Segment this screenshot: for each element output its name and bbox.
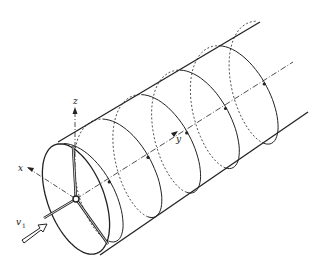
x-axis-label: x [18,163,23,173]
z-axis-label: z [72,96,78,106]
x-axis-line [28,168,76,199]
inflow-label: v [16,217,21,227]
helix-direction-arrow-icon [146,156,149,159]
rotor-hub [73,196,79,202]
helical-vortex [64,21,278,242]
x-axis-arrow-icon [27,167,34,172]
rotor-blade-highlight [76,199,108,244]
rotor [44,146,108,244]
helix-direction-arrow-icon [224,107,227,110]
helix-direction-arrow-icon [185,131,188,134]
vortex-wake-diagram: z y x v 1 [0,0,323,266]
y-axis-label: y [175,134,182,144]
y-axis-line [76,62,293,199]
z-axis-arrow-icon [73,107,78,114]
helix-direction-arrow-icon [108,180,111,183]
helix-direction-arrow-icon [263,82,266,85]
coordinate-axes [27,62,293,199]
inflow-subscript: 1 [22,222,26,229]
